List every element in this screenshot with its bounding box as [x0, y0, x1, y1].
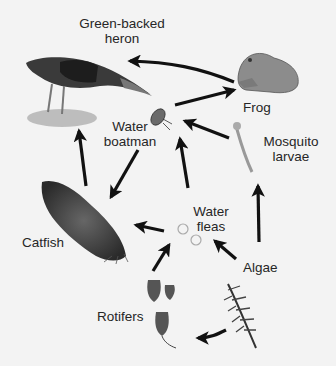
- catfish-illustration: [42, 181, 128, 264]
- food-web-art: [0, 0, 336, 366]
- arrow-boatman-to-frog: [175, 90, 234, 105]
- label-water-fleas: Water fleas: [190, 204, 232, 234]
- mosquito-larvae-illustration: [233, 122, 252, 172]
- label-catfish: Catfish: [22, 235, 64, 250]
- arrow-fleas-to-catfish: [136, 225, 164, 231]
- label-frog: Frog: [243, 100, 271, 115]
- food-web-diagram: Green-backed heron Frog Water boatman Mo…: [0, 0, 336, 366]
- rotifers-illustration: [147, 280, 176, 348]
- arrow-rotifers-to-fleas: [153, 245, 169, 271]
- label-mosquito-larvae: Mosquito larvae: [261, 134, 321, 164]
- arrow-algae-to-fleas: [215, 241, 236, 259]
- arrow-algae-to-rotifers: [198, 330, 226, 338]
- label-water-boatman: Water boatman: [100, 119, 160, 149]
- arrow-algae-to-mosquito: [258, 186, 259, 242]
- arrow-boatman-to-catfish: [111, 150, 138, 197]
- algae-illustration: [224, 284, 256, 348]
- arrow-mosquito-to-boatman: [185, 121, 229, 138]
- heron-illustration: [26, 57, 152, 127]
- label-green-backed-heron: Green-backed heron: [72, 16, 172, 46]
- frog-illustration: [238, 53, 298, 92]
- arrow-fleas-to-boatman: [180, 139, 188, 188]
- arrow-frog-to-heron: [130, 61, 234, 82]
- label-rotifers: Rotifers: [97, 309, 144, 324]
- label-algae: Algae: [243, 260, 278, 275]
- arrow-catfish-to-heron: [79, 131, 86, 186]
